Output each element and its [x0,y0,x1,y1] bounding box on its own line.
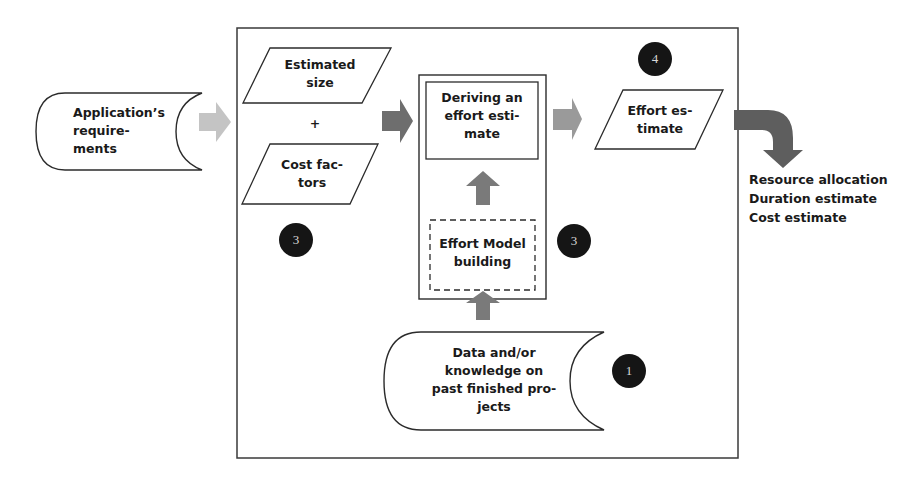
output-cost-estimate: Cost estimate [749,208,888,227]
effort-estimate-label: Effort es- timate [605,102,715,138]
arrow-curved-output [734,110,803,168]
cost-factors-label: Cost fac- tors [262,156,362,192]
arrow-light-1 [199,102,231,142]
output-resource-allocation: Resource allocation [749,170,888,189]
badge-4: 4 [638,42,672,76]
outputs-list: Resource allocation Duration estimate Co… [749,170,888,227]
app-requirements-label: Application’s require- ments [73,104,165,158]
badge-3: 3 [279,223,313,257]
badge-1: 1 [612,354,646,388]
deriving-estimate-label: Deriving an effort esti- mate [426,89,538,143]
estimated-size-label: Estimated size [270,56,370,92]
output-duration-estimate: Duration estimate [749,189,888,208]
plus-label: + [305,115,325,133]
arrow-dark-1 [382,99,413,143]
past-data-label: Data and/or knowledge on past finished p… [425,344,563,416]
arrow-mid-1 [553,98,582,140]
effort-model-label: Effort Model building [430,235,535,271]
badge-2: 3 [557,224,591,258]
